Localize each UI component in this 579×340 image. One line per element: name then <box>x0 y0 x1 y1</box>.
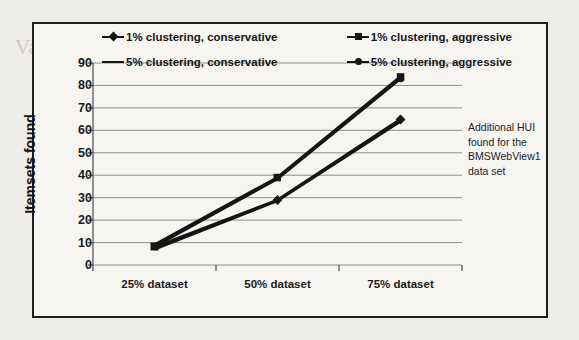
annotation-line-1: Additional HUI <box>468 120 546 135</box>
legend-item-1pct-conservative: 1% clustering, conservative <box>102 31 295 43</box>
y-tick-labels: 90 80 70 60 50 40 30 20 10 0 <box>58 0 92 340</box>
legend-label-5pct-conservative: 5% clustering, conservative <box>126 56 277 68</box>
annotation-line-3: BMSWebView1 <box>468 149 546 164</box>
x-tick-75pct: 75% dataset <box>367 278 433 290</box>
legend-item-5pct-aggressive: 5% clustering, aggressive <box>295 56 512 68</box>
y-tick-60: 60 <box>78 123 92 137</box>
y-tick-40: 40 <box>78 168 92 182</box>
legend-item-1pct-aggressive: 1% clustering, aggressive <box>295 31 512 43</box>
annotation-line-2: found for the <box>468 135 546 150</box>
y-tick-20: 20 <box>78 213 92 227</box>
y-tick-70: 70 <box>78 101 92 115</box>
y-tick-50: 50 <box>78 146 92 160</box>
legend-label-1pct-aggressive: 1% clustering, aggressive <box>371 31 512 43</box>
y-tick-30: 30 <box>78 191 92 205</box>
legend-marker-diamond-icon <box>102 31 124 43</box>
legend-marker-dot-icon <box>347 56 369 68</box>
x-tick-25pct: 25% dataset <box>121 278 187 290</box>
legend-marker-square-icon <box>347 31 369 43</box>
y-axis-title: Itemsets found <box>22 114 38 214</box>
y-tick-80: 80 <box>78 78 92 92</box>
y-tick-10: 10 <box>78 236 92 250</box>
chart-legend: 1% clustering, conservative 1% clusterin… <box>102 24 512 74</box>
legend-label-5pct-aggressive: 5% clustering, aggressive <box>371 56 512 68</box>
chart-annotation: Additional HUI found for the BMSWebView1… <box>468 120 546 178</box>
legend-label-1pct-conservative: 1% clustering, conservative <box>126 31 277 43</box>
legend-item-5pct-conservative: 5% clustering, conservative <box>102 56 295 68</box>
x-tick-50pct: 50% dataset <box>244 278 310 290</box>
legend-marker-line-icon <box>102 56 124 68</box>
y-tick-90: 90 <box>78 56 92 70</box>
y-tick-0: 0 <box>85 258 92 272</box>
annotation-line-4: data set <box>468 164 546 179</box>
